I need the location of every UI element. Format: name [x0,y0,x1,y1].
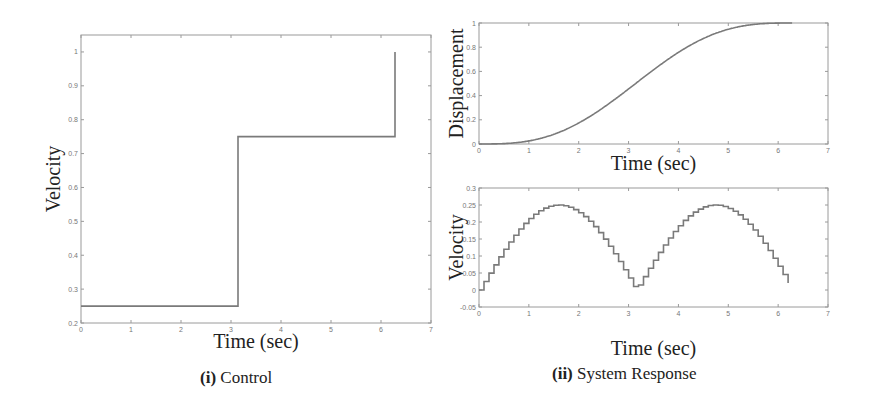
y-tick-label: 0.6 [68,184,78,191]
x-tick-label: 0 [79,326,83,333]
figure-canvas: 012345670.20.30.40.50.60.70.80.91Time (s… [0,0,870,408]
caption-control: (i) Control [200,368,272,388]
y-axis-label: Velocity [42,146,65,213]
axes-box [479,23,828,144]
x-axis-label: Time (sec) [611,152,696,175]
chart-displacement: 0123456700.20.40.60.81Time (sec)Displace… [445,20,830,176]
y-tick-label: 0.5 [68,218,78,225]
x-tick-label: 6 [776,147,780,154]
y-tick-label: 0 [472,287,476,294]
y-axis-label: Displacement [445,28,468,138]
x-tick-label: 1 [527,310,531,317]
axes-box [81,35,431,323]
x-tick-label: 1 [129,326,133,333]
x-tick-label: 0 [477,147,481,154]
caption-control-prefix: (i) [200,368,216,387]
y-tick-label: 1 [74,48,78,55]
caption-system-response-prefix: (ii) [552,364,573,383]
x-tick-label: 3 [627,310,631,317]
x-tick-label: 7 [826,147,830,154]
chart-velocity-response: 01234567-0.0500.050.10.150.20.250.3Time … [445,185,830,361]
y-tick-label: 0.4 [466,92,476,99]
y-tick-label: 0.2 [68,320,78,327]
y-tick-label: 0.8 [68,116,78,123]
y-tick-label: -0.05 [460,304,476,311]
y-tick-label: 0.2 [466,219,476,226]
y-tick-label: 0.2 [466,116,476,123]
x-tick-label: 7 [826,310,830,317]
y-tick-label: 0.7 [68,150,78,157]
x-tick-label: 7 [429,326,433,333]
x-tick-label: 4 [676,310,680,317]
y-tick-label: 0.6 [466,68,476,75]
y-tick-label: 0.4 [68,252,78,259]
caption-system-response: (ii) System Response [552,364,697,384]
x-axis-label: Time (sec) [213,330,298,353]
y-tick-label: 0.3 [466,185,476,192]
x-tick-label: 6 [379,326,383,333]
x-tick-label: 2 [577,310,581,317]
y-tick-label: 0.8 [466,44,476,51]
x-tick-label: 0 [477,310,481,317]
x-tick-label: 1 [527,147,531,154]
caption-system-response-text: System Response [577,364,696,383]
series-line-displacement [479,23,792,144]
y-tick-label: 0.1 [466,253,476,260]
x-tick-label: 5 [726,310,730,317]
y-axis-label: Velocity [445,214,468,281]
x-tick-label: 5 [329,326,333,333]
x-axis-label: Time (sec) [611,337,696,360]
series-line-velocity-response [479,205,788,290]
y-tick-label: 0.25 [462,202,476,209]
x-tick-label: 2 [577,147,581,154]
y-tick-label: 0.9 [68,82,78,89]
chart-control: 012345670.20.30.40.50.60.70.80.91Time (s… [42,35,433,353]
y-tick-label: 0 [472,141,476,148]
x-tick-label: 5 [726,147,730,154]
x-tick-label: 6 [776,310,780,317]
series-line-control [81,52,395,306]
axes-box [479,188,828,307]
caption-control-text: Control [220,368,272,387]
y-tick-label: 0.3 [68,286,78,293]
x-tick-label: 2 [179,326,183,333]
y-tick-label: 1 [472,20,476,27]
